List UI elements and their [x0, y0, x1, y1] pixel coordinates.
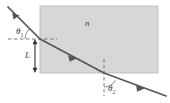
- incident-ray: [8, 7, 40, 39]
- angle-refraction-label: θ2: [108, 83, 115, 95]
- refraction-diagram: n θ1 θ2 L: [0, 0, 170, 103]
- thickness-arrowhead-down-icon: [33, 68, 38, 73]
- refracting-slab: [40, 6, 158, 73]
- angle-arc-theta1: [25, 29, 30, 40]
- thickness-arrowhead-up-icon: [33, 39, 38, 44]
- medium-index-label: n: [85, 18, 90, 28]
- thickness-label: L: [24, 50, 30, 60]
- angle-incidence-label: θ1: [16, 26, 23, 38]
